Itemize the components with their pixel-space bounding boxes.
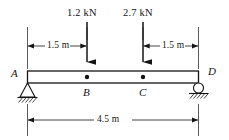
load-label-B: 1.2 kN bbox=[67, 8, 97, 19]
roller-support-D bbox=[189, 83, 209, 99]
beam-diagram: 1.2 kN 2.7 kN 1.5 m 1.5 m 4.5 m A B C D bbox=[0, 0, 229, 140]
point-dot-B bbox=[85, 75, 89, 79]
pin-support-A bbox=[18, 83, 38, 103]
load-label-C: 2.7 kN bbox=[123, 8, 153, 19]
point-dot-C bbox=[141, 75, 145, 79]
point-label-C: C bbox=[139, 87, 146, 98]
point-label-D: D bbox=[208, 66, 216, 77]
point-label-B: B bbox=[83, 87, 90, 98]
point-label-A: A bbox=[11, 68, 18, 79]
load-arrows bbox=[87, 22, 143, 62]
dimension-label-C-D: 1.5 m bbox=[161, 41, 185, 51]
ground-hatch-A bbox=[19, 98, 37, 103]
ground-hatch-D bbox=[190, 94, 208, 99]
dimension-label-A-B: 1.5 m bbox=[46, 41, 70, 51]
beam-member bbox=[28, 71, 199, 83]
dimension-label-A-D: 4.5 m bbox=[96, 115, 120, 125]
